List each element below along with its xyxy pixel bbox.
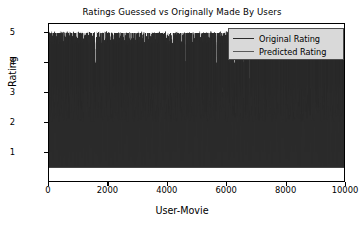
legend-label-predicted: Predicted Rating [259,47,326,57]
x-tick-label: 4000 [137,186,197,195]
x-tick-mark [107,182,108,186]
x-tick-mark [167,182,168,186]
y-tick-label: 5 [0,28,15,36]
y-tick-label: 1 [0,148,15,156]
x-tick-label: 8000 [256,186,316,195]
y-tick-label: 3 [0,88,15,96]
x-tick-mark [345,182,346,186]
x-tick-label: 2000 [77,186,137,195]
y-tick-label: 4 [0,58,15,66]
legend-label-original: Original Rating [259,34,320,44]
chart-title: Ratings Guessed vs Originally Made By Us… [0,7,364,17]
legend-item-original[interactable]: Original Rating [233,32,339,45]
x-tick-mark [286,182,287,186]
x-tick-label: 6000 [196,186,256,195]
y-tick-label: 2 [0,118,15,126]
chart-legend: Original Rating Predicted Rating [228,28,344,60]
x-tick-mark [226,182,227,186]
x-tick-label: 10000 [315,186,364,195]
legend-swatch-original-icon [233,38,254,39]
legend-item-predicted[interactable]: Predicted Rating [233,45,339,58]
x-tick-mark [48,182,49,186]
legend-swatch-predicted-icon [233,51,254,52]
x-axis-label: User-Movie [0,205,364,216]
x-tick-label: 0 [18,186,78,195]
chart-figure: Ratings Guessed vs Originally Made By Us… [0,0,364,227]
